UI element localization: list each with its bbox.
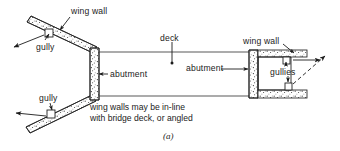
wing-wall-lower-right	[258, 90, 307, 98]
label-abutment-right: abutment	[186, 63, 223, 74]
wing-wall-upper-right	[258, 50, 307, 57]
label-gullies-right: gullies	[270, 67, 296, 78]
figure-id-label: (a)	[163, 131, 174, 141]
bridge-abutment-plan-figure: wing wall gully gully deck abutment abut…	[0, 0, 340, 151]
label-deck: deck	[160, 33, 179, 44]
gully-box-lower-right	[285, 83, 292, 90]
label-abutment-left: abutment	[110, 69, 147, 80]
leader-wing-wall-top	[60, 17, 70, 30]
leader-deck-dot	[171, 62, 174, 65]
wing-wall-lower-left	[26, 95, 96, 133]
wing-wall-note-line2: with bridge deck, or angled	[90, 113, 193, 124]
wing-wall-note-line1: wing walls may be in-line	[90, 102, 193, 113]
gully-box-upper-left	[45, 29, 53, 37]
label-gully-lower-left: gully	[39, 93, 58, 104]
wing-wall-note: wing walls may be in-line with bridge de…	[90, 102, 193, 124]
abutment-left	[90, 48, 99, 100]
flow-arrow-lower-left	[16, 113, 46, 116]
label-wing-wall-top: wing wall	[71, 6, 107, 17]
abutment-right	[249, 50, 258, 98]
label-gully-upper-left: gully	[36, 42, 55, 53]
leader-gully-lower-left	[50, 103, 52, 110]
label-wing-wall-right: wing wall	[243, 36, 279, 47]
gully-box-upper-right	[283, 57, 290, 64]
gully-box-lower-left	[47, 110, 55, 118]
